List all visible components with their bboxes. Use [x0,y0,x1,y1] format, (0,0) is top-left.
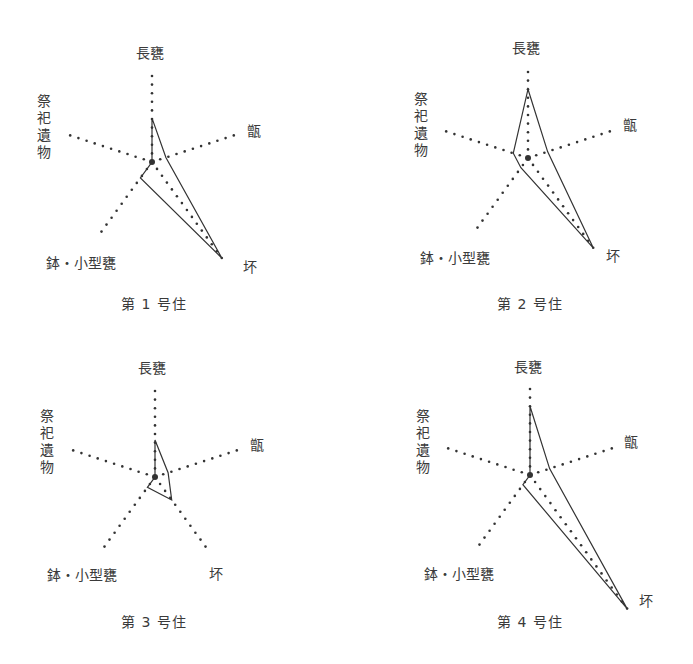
axis-dot [486,143,489,146]
axis-dot [134,504,137,507]
axis-dot [562,205,565,208]
axis-dot [527,131,530,134]
axis-dot [592,135,595,138]
axis-dot [179,511,182,514]
axis-dot [544,495,547,498]
axis-dot [590,558,593,561]
axis-dot [166,181,169,184]
radar-plots [0,0,693,664]
axis-dot [595,565,598,568]
radar-chart-2-plot [445,71,611,249]
axis-dot [609,130,612,133]
axis-dot [195,462,198,465]
axis-dot [527,122,530,125]
axis-dot [154,407,157,410]
axis-dot [143,158,146,161]
axis-dot [206,236,209,239]
center-dot [527,472,533,478]
axis-label-cup: 坏 [606,248,620,264]
axis-dot [164,490,167,493]
axis-dot [200,145,203,148]
axis-dot [159,483,162,486]
axis-dot [137,470,140,473]
axis-dot [498,515,501,518]
axis-dot [481,219,484,222]
axis-dot [568,143,571,146]
axis-label-ritual-objects: 祭祀遺物 [39,408,55,476]
axis-dot [128,511,131,514]
axis-dot [512,468,515,471]
axis-dot [113,531,116,534]
axis-dot [602,450,605,453]
axis-dot [154,424,157,427]
axis-dot [110,147,113,150]
radar-chart-3-plot [72,390,238,548]
axis-label-cup: 坏 [639,593,653,609]
axis-dot [517,171,520,174]
axis-dot [110,216,113,219]
axis-dot [126,153,129,156]
axis-dot [233,134,236,137]
axis-dot [129,468,132,471]
axis-dot [493,522,496,525]
data-polygon [513,89,593,248]
axis-dot [567,212,570,215]
axis-dot [494,146,497,149]
axis-dot [199,538,202,541]
axis-dot [543,151,546,154]
axis-dot [115,209,118,212]
axis-dot [154,433,157,436]
axis-dot [170,470,173,473]
axis-dot [121,465,124,468]
axis-dot [201,229,204,232]
axis-dot [549,502,552,505]
axis-dot [211,457,214,460]
axis-dot [527,148,530,151]
axis-dot [504,466,507,469]
axis-dot [134,155,137,158]
center-dot [152,474,158,480]
axis-dot [131,189,134,192]
axis-dot [191,216,194,219]
axis-dot [196,222,199,225]
axis-dot [176,195,179,198]
axis-dot [154,390,157,393]
axis-dot [514,495,517,498]
axis-dot [85,139,88,142]
axis-dot [578,458,581,461]
axis-dot [167,155,170,158]
axis-label-long-jar: 長甕 [138,360,166,376]
axis-dot [503,509,506,512]
axis-dot [582,233,585,236]
axis-dot [527,79,530,82]
axis-dot [113,462,116,465]
axis-dot [476,226,479,229]
axis-label-long-jar: 長甕 [514,359,542,375]
axis-dot [183,150,186,153]
axis-dot [561,463,564,466]
axis-label-ritual-objects: 祭祀遺物 [413,91,429,159]
axis-label-bowl-small-jar: 鉢・小型甕 [46,255,116,271]
axis-label-long-jar: 長甕 [512,40,540,56]
data-polygon [523,406,627,608]
axis-dot [577,226,580,229]
axis-dot [570,530,573,533]
axis-dot [519,488,522,491]
axis-dot [542,177,545,180]
axis-dot [580,544,583,547]
axis-dot [151,101,154,104]
axis-dot [554,509,557,512]
axis-dot [576,141,579,144]
axis-dot [496,463,499,466]
axis-dot [100,230,103,233]
axis-dot [510,151,513,154]
axis-dot [570,460,573,463]
axis-dot [105,460,108,463]
axis-dot [471,455,474,458]
axis-dot [125,196,128,199]
axis-dot [527,140,530,143]
axis-dot [204,545,207,548]
axis-dot [151,92,154,95]
axis-dot [486,212,489,215]
axis-label-bowl-small-jar: 鉢・小型甕 [424,566,494,582]
